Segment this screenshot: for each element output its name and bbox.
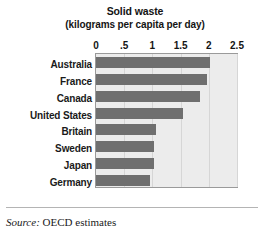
source-note: Source: OECD estimates [6, 216, 116, 228]
bar-france [96, 74, 207, 85]
category-label-sweden: Sweden [8, 143, 92, 154]
bar-canada [96, 91, 200, 102]
x-tick-label-0: 0 [93, 40, 99, 52]
category-label-britain: Britain [8, 126, 92, 137]
bar-japan [96, 158, 154, 169]
bar-germany [96, 175, 150, 186]
source-label: Source: [6, 216, 40, 228]
x-tick-label-3: 1.5 [174, 40, 188, 52]
bar-australia [96, 57, 210, 68]
category-label-france: France [8, 76, 92, 87]
bar-sweden [96, 141, 154, 152]
category-label-japan: Japan [8, 160, 92, 171]
bar-united-states [96, 108, 183, 119]
chart-title: Solid waste [0, 5, 270, 18]
x-tick-label-5: 2.5 [230, 40, 244, 52]
bar-britain [96, 124, 156, 135]
chart-title-block: Solid waste (kilograms per capita per da… [0, 5, 270, 31]
y-axis-category-labels: AustraliaFranceCanadaUnited StatesBritai… [8, 56, 92, 188]
chart-figure: Solid waste (kilograms per capita per da… [0, 0, 270, 239]
footer-divider [6, 207, 258, 208]
source-text: OECD estimates [40, 216, 116, 228]
category-label-canada: Canada [8, 93, 92, 104]
gridline-5 [237, 54, 238, 187]
x-axis-tick-labels: 0.511.522.5 [95, 40, 238, 53]
bar-series [96, 54, 237, 187]
plot-area [95, 53, 238, 188]
x-tick-label-4: 2 [206, 40, 212, 52]
x-tick-label-2: 1 [150, 40, 156, 52]
category-label-germany: Germany [8, 177, 92, 188]
category-label-australia: Australia [8, 59, 92, 70]
category-label-united-states: United States [8, 110, 92, 121]
x-tick-label-1: .5 [120, 40, 128, 52]
chart-subtitle: (kilograms per capita per day) [0, 18, 270, 31]
